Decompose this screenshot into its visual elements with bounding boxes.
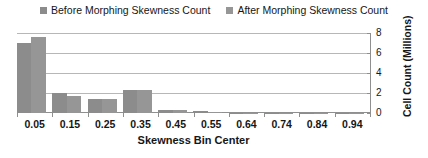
bar — [67, 96, 81, 113]
y-tick-label: 2 — [376, 88, 382, 98]
bin-group — [335, 33, 370, 113]
legend-entry-after: After Morphing Skewness Count — [226, 5, 388, 16]
bar — [137, 90, 151, 113]
plot-area — [17, 33, 370, 113]
y-tick-label: 6 — [376, 48, 382, 58]
bar — [52, 93, 66, 113]
y-tick-label: 8 — [376, 28, 382, 38]
x-tick-marks — [17, 113, 370, 117]
y-tick — [367, 53, 371, 54]
legend-label-after: After Morphing Skewness Count — [237, 5, 388, 16]
x-tick — [335, 113, 336, 117]
bin-group — [123, 33, 158, 113]
bin-group — [193, 33, 228, 113]
x-axis-tick-label: 0.25 — [88, 118, 123, 132]
x-tick — [264, 113, 265, 117]
bin-group — [264, 33, 299, 113]
x-axis-tick-label: 0.55 — [193, 118, 228, 132]
y-tick — [367, 93, 371, 94]
bar — [31, 37, 45, 113]
bin-group — [229, 33, 264, 113]
x-axis-tick-label: 0.05 — [17, 118, 52, 132]
square-marker-icon — [226, 7, 233, 14]
x-tick — [299, 113, 300, 117]
x-tick — [158, 113, 159, 117]
bin-group — [299, 33, 334, 113]
legend-label-before: Before Morphing Skewness Count — [51, 5, 210, 16]
bin-group — [158, 33, 193, 113]
bar — [102, 99, 116, 113]
skewness-bar-chart: Before Morphing Skewness Count After Mor… — [0, 0, 428, 158]
x-axis-title: Skewness Bin Center — [17, 134, 370, 146]
y-tick-label: 0 — [376, 108, 382, 118]
chart-legend: Before Morphing Skewness Count After Mor… — [0, 2, 428, 18]
y-axis: 02468 — [370, 33, 371, 114]
x-axis-labels: 0.050.150.250.350.450.550.640.740.840.94 — [17, 118, 370, 132]
x-tick — [229, 113, 230, 117]
bin-group — [52, 33, 87, 113]
y-tick-label: 4 — [376, 68, 382, 78]
x-axis-tick-label: 0.84 — [299, 118, 334, 132]
bar — [17, 43, 31, 113]
x-axis-tick-label: 0.15 — [52, 118, 87, 132]
x-tick — [123, 113, 124, 117]
bin-group — [17, 33, 52, 113]
y-tick — [367, 33, 371, 34]
bar — [123, 90, 137, 113]
square-marker-icon — [40, 7, 47, 14]
bin-group — [88, 33, 123, 113]
x-tick — [370, 113, 371, 117]
x-tick — [17, 113, 18, 117]
x-axis-tick-label: 0.64 — [229, 118, 264, 132]
y-tick — [367, 73, 371, 74]
bar — [88, 99, 102, 113]
x-axis-tick-label: 0.74 — [264, 118, 299, 132]
x-tick — [194, 113, 195, 117]
bars-layer — [17, 33, 370, 113]
x-axis-tick-label: 0.94 — [335, 118, 370, 132]
y-axis-title: Cell Count (Millions) — [401, 31, 413, 117]
x-tick — [52, 113, 53, 117]
legend-entry-before: Before Morphing Skewness Count — [40, 5, 210, 16]
x-axis-tick-label: 0.35 — [123, 118, 158, 132]
x-tick — [88, 113, 89, 117]
x-axis-tick-label: 0.45 — [158, 118, 193, 132]
